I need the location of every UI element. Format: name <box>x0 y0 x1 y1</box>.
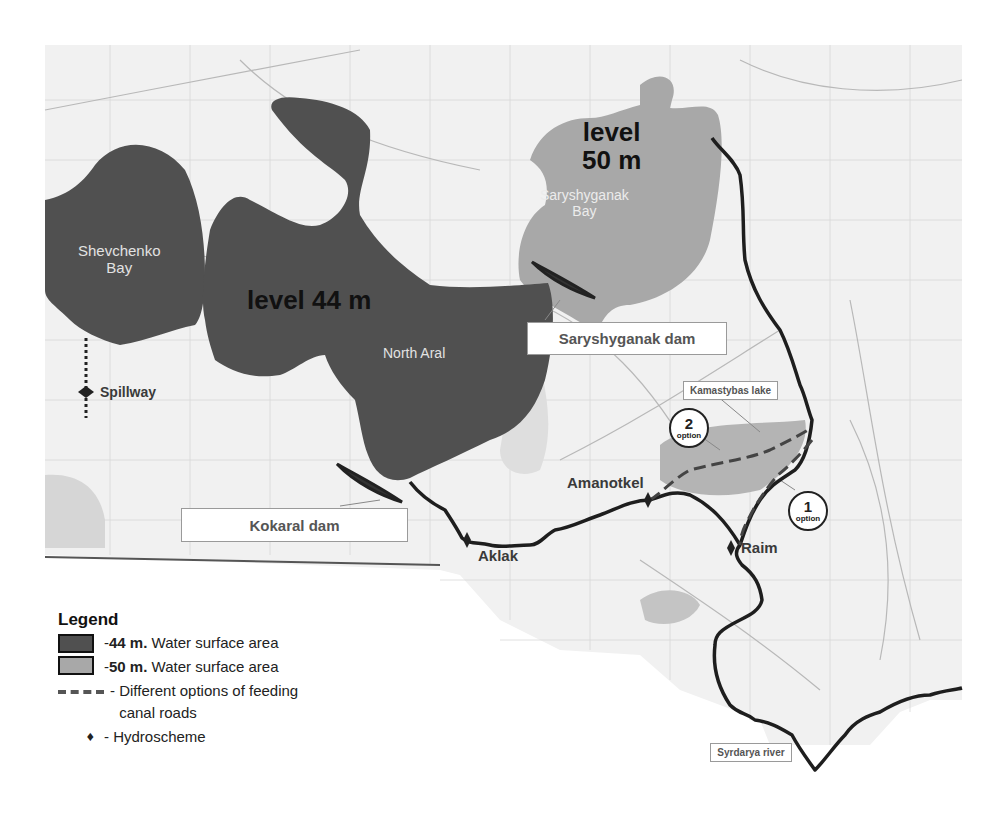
legend-title: Legend <box>58 610 298 630</box>
legend-50m-bold: 50 m. <box>109 658 147 675</box>
option-2-bubble: 2 option <box>669 408 709 448</box>
legend-item-hydroscheme: ♦ - Hydroscheme <box>58 728 298 752</box>
label-saryshyganak-bay-line1: Saryshyganak <box>540 187 629 203</box>
legend-item-44m: -44 m. Water surface area <box>58 634 298 658</box>
legend-dash: - <box>104 728 113 745</box>
option-1-bubble: 1 option <box>788 491 828 531</box>
option-1-number: 1 <box>804 500 812 514</box>
dark-water-swatch-icon <box>58 634 94 653</box>
legend-canal-text: Different options of feeding canal roads <box>119 680 298 724</box>
label-kokaral-dam: Kokaral dam <box>181 508 408 542</box>
label-saryshyganak-dam: Saryshyganak dam <box>527 322 727 355</box>
label-shevchenko-line2: Bay <box>78 259 161 276</box>
label-shevchenko-bay: Shevchenko Bay <box>78 242 161 277</box>
label-level-50: level 50 m <box>582 118 641 174</box>
legend-item-canal: - Different options of feeding canal roa… <box>58 682 298 728</box>
hydroscheme-icon: ♦ <box>58 728 94 744</box>
legend-50m-text: Water surface area <box>147 658 278 675</box>
label-aklak: Aklak <box>478 547 518 564</box>
legend-44m-text: Water surface area <box>147 634 278 651</box>
label-spillway: Spillway <box>100 384 156 400</box>
label-shevchenko-line1: Shevchenko <box>78 242 161 259</box>
option-1-word: option <box>796 514 820 523</box>
legend-canal-line1: Different options of feeding <box>119 680 298 702</box>
dashed-line-icon <box>58 690 104 694</box>
label-saryshyganak-bay-line2: Bay <box>540 203 629 219</box>
option-2-number: 2 <box>685 417 693 431</box>
label-saryshyganak-bay: Saryshyganak Bay <box>540 187 629 219</box>
label-level-50-line2: 50 m <box>582 146 641 174</box>
legend-item-50m: -50 m. Water surface area <box>58 658 298 682</box>
label-level-44: level 44 m <box>247 285 371 316</box>
label-raim: Raim <box>741 539 778 556</box>
legend-canal-line2: canal roads <box>119 702 298 724</box>
option-2-word: option <box>677 431 701 440</box>
legend-dash: - <box>110 682 119 699</box>
light-water-swatch-icon <box>58 656 94 675</box>
label-kamastybas-lake: Kamastybas lake <box>683 381 778 400</box>
label-level-50-line1: level <box>582 118 641 146</box>
label-syrdarya-river: Syrdarya river <box>710 743 792 762</box>
label-north-aral: North Aral <box>383 345 445 361</box>
label-amanotkel: Amanotkel <box>567 474 644 491</box>
legend: Legend -44 m. Water surface area -50 m. … <box>58 610 298 752</box>
legend-44m-bold: 44 m. <box>109 634 147 651</box>
legend-hydroscheme-text: Hydroscheme <box>113 728 206 745</box>
